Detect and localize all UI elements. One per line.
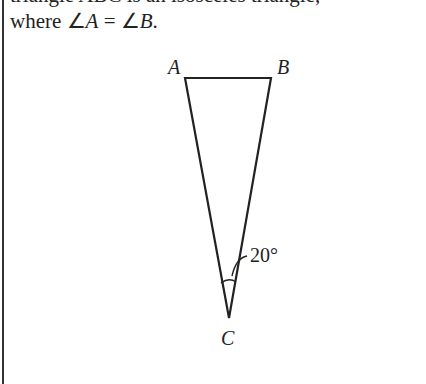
isosceles-triangle-figure: A B C 20° [0,0,426,384]
triangle-abc [185,78,271,318]
label-c: C [221,327,235,349]
label-a: A [166,56,181,78]
angle-c-value: 20° [250,244,278,266]
label-b: B [277,56,289,78]
